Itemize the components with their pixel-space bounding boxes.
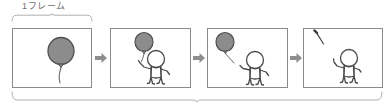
panel-balloon-released	[207, 28, 288, 88]
right-arrow-icon	[192, 51, 206, 65]
panel-1-artwork	[13, 29, 92, 88]
balloon-icon	[216, 33, 234, 64]
right-arrow-icon	[94, 51, 108, 65]
panel-figure-holding-balloon	[110, 28, 191, 88]
stick-figure-body-fill	[151, 67, 161, 79]
one-frame-label: 1フレーム	[22, 1, 66, 12]
panel-4-artwork	[304, 29, 383, 88]
storyboard-diagram: 1フレーム	[0, 0, 391, 106]
balloon-string-tail-icon	[314, 30, 324, 44]
balloon-icon	[48, 38, 74, 84]
panel-2-artwork	[111, 29, 191, 88]
one-frame-bracket	[11, 13, 93, 22]
right-arrow-icon	[289, 51, 303, 65]
panel-balloon-only	[12, 28, 92, 88]
stick-figure-body-fill	[250, 68, 260, 80]
full-sequence-bracket	[11, 91, 383, 103]
panel-3-artwork	[208, 29, 288, 88]
stick-figure-body-fill	[344, 66, 354, 78]
panel-balloon-gone	[303, 28, 383, 88]
